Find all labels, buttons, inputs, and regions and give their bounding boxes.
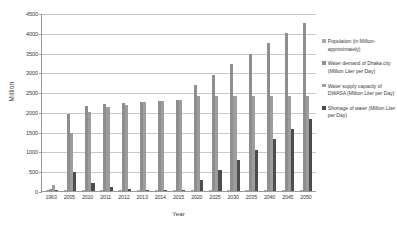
bar xyxy=(182,190,185,191)
y-axis-tick-label: 4000 xyxy=(26,31,38,37)
y-axis-tick-mark xyxy=(39,192,42,193)
y-axis-tick-label: 1500 xyxy=(26,130,38,136)
plot-area xyxy=(41,14,316,192)
bar-group xyxy=(243,14,261,191)
x-axis-tick-label: 1963 xyxy=(42,194,60,206)
bar-group xyxy=(152,14,170,191)
legend-swatch-supply-capacity xyxy=(322,84,326,88)
bar-group xyxy=(43,14,61,191)
bar xyxy=(161,101,164,191)
bar xyxy=(273,139,276,191)
y-axis-tick-label: 2500 xyxy=(26,90,38,96)
x-axis-tick-label: 2040 xyxy=(260,194,278,206)
legend-item-label: Water supply capacity of DWASA (Million … xyxy=(328,83,396,98)
bar xyxy=(106,107,109,191)
y-axis-tick-label: 3000 xyxy=(26,70,38,76)
y-axis-tick-label: 4500 xyxy=(26,11,38,17)
bar-group xyxy=(97,14,115,191)
y-axis-tick-label: 0 xyxy=(35,189,38,195)
bar-group xyxy=(224,14,242,191)
bar xyxy=(143,102,146,191)
bar xyxy=(125,105,128,191)
bar-group xyxy=(134,14,152,191)
legend-swatch-water-demand xyxy=(322,61,326,65)
y-axis-tick-label: 1000 xyxy=(26,149,38,155)
bar xyxy=(255,150,258,191)
x-axis-tick-label: 2030 xyxy=(224,194,242,206)
legend-swatch-population xyxy=(322,39,326,43)
bar xyxy=(73,172,76,191)
bar-group xyxy=(79,14,97,191)
y-axis-tick-labels: 050010001500200025003000350040004500 xyxy=(14,14,38,192)
y-axis-tick-label: 2000 xyxy=(26,110,38,116)
bar xyxy=(128,189,131,191)
bar-group xyxy=(206,14,224,191)
y-axis-tick-label: 500 xyxy=(29,169,38,175)
bar xyxy=(237,160,240,191)
legend-item[interactable]: Shortage of water (Million Liter per Day… xyxy=(322,105,396,120)
bar-group xyxy=(116,14,134,191)
legend-item-label: Population (in Million- approximately) xyxy=(328,38,396,53)
x-axis-tick-label: 2012 xyxy=(115,194,133,206)
bar-groups xyxy=(42,14,316,191)
x-axis-tick-label: 2035 xyxy=(242,194,260,206)
x-axis-tick-label: 2011 xyxy=(97,194,115,206)
x-axis-tick-label: 2014 xyxy=(151,194,169,206)
legend-item[interactable]: Population (in Million- approximately) xyxy=(322,38,396,53)
legend-item[interactable]: Water supply capacity of DWASA (Million … xyxy=(322,83,396,98)
bar-group xyxy=(297,14,315,191)
bar-group xyxy=(170,14,188,191)
bar xyxy=(146,190,149,191)
x-axis-tick-label: 2010 xyxy=(78,194,96,206)
bar xyxy=(88,112,91,191)
chart-container: Million 05001000150020002500300035004000… xyxy=(0,0,397,237)
legend-item-label: Water demand of Dhaka city (Million Lite… xyxy=(328,60,396,75)
bar xyxy=(291,129,294,191)
bar xyxy=(309,119,312,191)
x-axis-tick-label: 2045 xyxy=(279,194,297,206)
x-axis-tick-label: 2013 xyxy=(133,194,151,206)
bar xyxy=(179,100,182,191)
bar-group xyxy=(261,14,279,191)
x-axis-tick-label: 2050 xyxy=(297,194,315,206)
legend-item-label: Shortage of water (Million Liter per Day… xyxy=(328,105,396,120)
x-axis-tick-label: 2020 xyxy=(188,194,206,206)
chart-legend: Population (in Million- approximately)Wa… xyxy=(322,38,396,127)
bar xyxy=(164,190,167,191)
x-axis-tick-label: 2005 xyxy=(60,194,78,206)
legend-item[interactable]: Water demand of Dhaka city (Million Lite… xyxy=(322,60,396,75)
x-axis-tick-labels: 1963200520102011201220132014201520202025… xyxy=(41,194,316,206)
bar xyxy=(55,190,58,191)
x-axis-tick-label: 2015 xyxy=(169,194,187,206)
legend-swatch-shortage xyxy=(322,106,326,110)
bar xyxy=(200,180,203,191)
bar xyxy=(110,187,113,191)
bar xyxy=(197,96,200,191)
bar-group xyxy=(188,14,206,191)
y-axis-tick-label: 3500 xyxy=(26,51,38,57)
bar-group xyxy=(279,14,297,191)
x-axis-title: Year xyxy=(41,210,316,217)
x-axis-tick-label: 2025 xyxy=(206,194,224,206)
bar-group xyxy=(61,14,79,191)
bar xyxy=(91,183,94,191)
bar xyxy=(218,170,221,191)
